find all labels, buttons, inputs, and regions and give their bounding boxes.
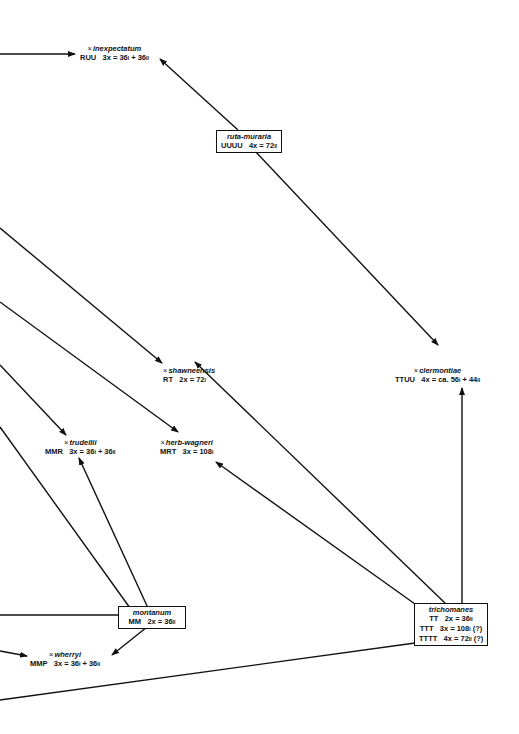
node-wherryi: ×wherryi MMP 3x = 36I + 36II — [30, 650, 100, 669]
formula: 4x = ca. 56 — [421, 375, 459, 384]
node-herb-wagneri: ×herb-wagneri MRT 3x = 108I — [160, 438, 213, 457]
edge-ruta-to-clermontiae — [254, 150, 438, 345]
edge-montanum-to-wherryi — [112, 627, 147, 655]
formula: 2x = 72 — [179, 375, 204, 384]
node-clermontiae: ×clermontiae TTUU 4x = ca. 56I + 44II — [395, 366, 480, 385]
edge-trichomanes-to-herb-wagneri — [216, 462, 415, 604]
uncertainty-mark: (?) — [471, 624, 483, 633]
subscript: II — [146, 55, 149, 61]
hybrid-cross-symbol: × — [414, 366, 418, 375]
taxon-name: wherryi — [54, 650, 81, 659]
node-shawneensis: ×shawneensis RT 2x = 72I — [163, 366, 215, 385]
formula: 2x = 36 — [147, 617, 172, 626]
formula: 3x = 36 — [54, 659, 79, 668]
node-inexpectatum: ×inexpectatum RUU 3x = 36I + 36II — [80, 44, 149, 63]
taxon-name: trudellii — [69, 438, 96, 447]
subscript: II — [470, 616, 473, 622]
node-ruta-muraria: ruta-muraria UUUU 4x = 72II — [216, 130, 282, 153]
genome: MRT — [160, 447, 176, 456]
genome: TTTT — [419, 634, 437, 643]
genome: MM — [129, 617, 142, 626]
formula: 4x = 72 — [444, 634, 469, 643]
edge-left-to-wherryi — [0, 651, 27, 656]
ploidy-row: TT 2x = 36II — [419, 614, 483, 624]
subscript: I — [212, 449, 213, 455]
genome: TT — [429, 614, 438, 623]
edge-trichomanes-to-shawneensis — [195, 362, 446, 604]
ploidy-row: TTTT 4x = 72II (?) — [419, 634, 483, 644]
node-trichomanes: trichomanes TT 2x = 36II TTT 3x = 108I (… — [414, 603, 488, 646]
formula-part: + 36 — [80, 659, 97, 668]
subscript: II — [274, 143, 277, 149]
genome: RUU — [80, 53, 96, 62]
formula: 3x = 36 — [103, 53, 128, 62]
hybrid-cross-symbol: × — [49, 650, 53, 659]
edge-left-to-shawneensis — [0, 228, 162, 363]
formula: 4x = 72 — [249, 141, 274, 150]
taxon-name: shawneensis — [168, 366, 215, 375]
formula: 3x = 36 — [69, 447, 94, 456]
subscript: II — [97, 661, 100, 667]
taxon-name: montanum — [123, 608, 181, 617]
subscript: II — [477, 377, 480, 383]
subscript: II — [173, 619, 176, 625]
node-trudellii: ×trudellii MMR 3x = 36I + 36II — [45, 438, 115, 457]
genome: MMR — [45, 447, 63, 456]
taxon-name: trichomanes — [419, 605, 483, 614]
genome: TTUU — [395, 375, 415, 384]
genome: TTT — [420, 624, 434, 633]
formula: 2x = 36 — [445, 614, 470, 623]
formula: 3x = 108 — [440, 624, 469, 633]
subscript: II — [113, 449, 116, 455]
edge-ruta-to-inexpectatum — [160, 59, 238, 130]
formula: 3x = 108 — [183, 447, 212, 456]
formula-part: + 36 — [96, 447, 113, 456]
subscript: I — [205, 377, 206, 383]
hybrid-cross-symbol: × — [88, 44, 92, 53]
formula-part: + 44 — [460, 375, 477, 384]
hybrid-cross-symbol: × — [64, 438, 68, 447]
formula-part: + 36 — [129, 53, 146, 62]
ploidy-row: TTT 3x = 108I (?) — [419, 624, 483, 634]
genome: UUUU — [221, 141, 243, 150]
taxon-name: clermontiae — [419, 366, 461, 375]
genome: MMP — [30, 659, 48, 668]
taxon-name: herb-wagneri — [166, 438, 213, 447]
taxon-name: ruta-muraria — [221, 132, 277, 141]
edge-left-to-herb-wagneri — [0, 302, 178, 432]
hybrid-cross-symbol: × — [160, 438, 164, 447]
hybrid-cross-symbol: × — [163, 366, 167, 375]
edge-left-to-trudellii — [0, 365, 66, 435]
genome: RT — [163, 375, 173, 384]
taxon-name: inexpectatum — [93, 44, 141, 53]
node-montanum: montanum MM 2x = 36II — [118, 606, 186, 629]
uncertainty-mark: (?) — [472, 634, 484, 643]
